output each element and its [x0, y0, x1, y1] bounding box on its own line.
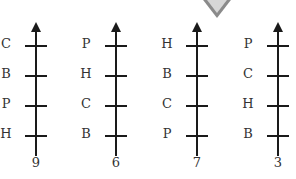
tick-label: B	[238, 126, 258, 141]
tick-mark	[186, 135, 208, 137]
tick-mark	[105, 45, 127, 47]
tick-label: B	[76, 126, 96, 141]
tick-mark	[186, 45, 208, 47]
tick-label: P	[157, 126, 177, 141]
axis-number: 6	[96, 155, 136, 170]
axis-4: PCHB3	[258, 0, 296, 179]
tick-mark	[25, 75, 47, 77]
axis-3: HBCP7	[177, 0, 217, 179]
tick-mark	[25, 45, 47, 47]
tick-mark	[105, 135, 127, 137]
tick-label: P	[76, 36, 96, 51]
tick-mark	[267, 105, 289, 107]
arrow-up-icon	[273, 22, 283, 32]
arrow-up-icon	[192, 22, 202, 32]
tick-label: H	[76, 66, 96, 81]
selection-marker-inner	[204, 0, 230, 13]
axis-number: 7	[177, 155, 217, 170]
tick-mark	[25, 135, 47, 137]
tick-mark	[267, 135, 289, 137]
tick-mark	[267, 75, 289, 77]
tick-mark	[105, 75, 127, 77]
tick-label: P	[0, 96, 16, 111]
arrow-up-icon	[31, 22, 41, 32]
tick-label: H	[0, 126, 16, 141]
tick-mark	[105, 105, 127, 107]
tick-label: C	[157, 96, 177, 111]
axis-2: PHCB6	[96, 0, 136, 179]
tick-mark	[267, 45, 289, 47]
tick-mark	[186, 105, 208, 107]
tick-mark	[25, 105, 47, 107]
tick-label: C	[238, 66, 258, 81]
tick-label: B	[0, 66, 16, 81]
axis-1: CBPH9	[16, 0, 56, 179]
tick-label: H	[238, 96, 258, 111]
axis-number: 9	[16, 155, 56, 170]
tick-label: P	[238, 36, 258, 51]
tick-label: C	[76, 96, 96, 111]
tick-label: H	[157, 36, 177, 51]
tick-mark	[186, 75, 208, 77]
tick-label: B	[157, 66, 177, 81]
axis-number: 3	[258, 155, 296, 170]
arrow-up-icon	[111, 22, 121, 32]
tick-label: C	[0, 36, 16, 51]
